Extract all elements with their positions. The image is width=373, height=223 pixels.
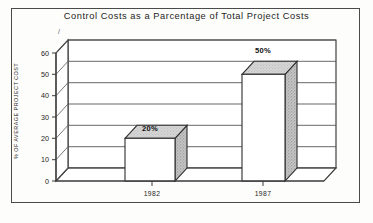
y-tick-30: 30 [41,113,49,122]
y-tick-0: 0 [45,177,49,186]
y-tick-20: 20 [41,134,49,143]
y-tick-10: 10 [41,155,49,164]
bar-1982-front [125,138,175,181]
y-tick-50: 50 [41,70,49,79]
y-tick-40: 40 [41,91,49,100]
y-tick-labels: 0 10 20 30 40 50 60 [41,49,49,186]
y-axis [52,53,56,181]
x-axis [56,181,324,186]
bar-1987[interactable] [242,61,297,181]
bar-1982[interactable] [125,125,187,181]
y-tick-60: 60 [41,49,49,58]
x-tick-1982: 1982 [144,190,161,197]
bar-1987-value-label: 50% [255,46,271,55]
bar-1987-side [285,61,297,181]
x-tick-1987: 1987 [255,190,272,197]
bar-chart-plot: 0 10 20 30 40 50 60 20% 50% [0,0,373,223]
x-tick-labels: 1982 1987 [144,190,272,197]
bar-1987-front [242,74,285,181]
bar-1982-value-label: 20% [142,124,158,133]
